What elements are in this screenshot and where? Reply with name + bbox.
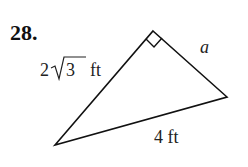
right-triangle-diagram: 2 3 ft a 4 ft	[0, 0, 248, 167]
leg-left-coef: 2	[40, 60, 49, 80]
leg-left-radicand: 3	[66, 60, 75, 80]
right-angle-marker	[146, 38, 162, 47]
leg-left-unit: ft	[90, 60, 101, 80]
leg-right-label: a	[200, 37, 209, 57]
hypotenuse-label: 4 ft	[154, 127, 179, 147]
